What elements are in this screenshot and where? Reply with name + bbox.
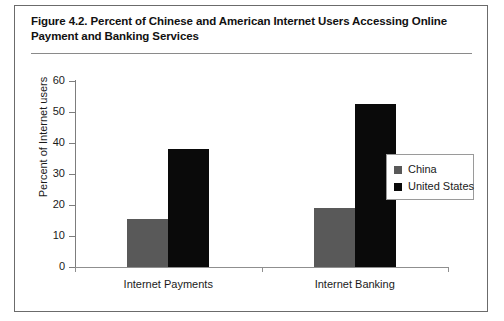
bar-china-internet-payments xyxy=(127,219,168,267)
figure-container: Figure 4.2. Percent of Chinese and Ameri… xyxy=(14,5,488,312)
legend-item-united-states: United States xyxy=(394,181,467,192)
legend-label-china: China xyxy=(408,164,437,175)
x-axis-category-label: Internet Banking xyxy=(295,278,415,290)
y-axis-tick xyxy=(69,174,75,175)
y-axis-tick-label-wrap: 0 xyxy=(15,261,65,272)
x-axis-tick xyxy=(448,267,449,272)
x-axis-tick xyxy=(75,267,76,272)
bar-china-internet-banking xyxy=(314,208,355,267)
y-axis-tick xyxy=(69,81,75,82)
y-axis-tick-label: 40 xyxy=(29,137,65,148)
legend-swatch-icon-china xyxy=(394,166,402,174)
y-axis-tick-label-wrap: 40 xyxy=(15,137,65,148)
y-axis-tick-label-wrap: 20 xyxy=(15,199,65,210)
bar-united-states-internet-payments xyxy=(168,149,209,267)
y-axis-tick-label: 30 xyxy=(29,168,65,179)
y-axis-tick xyxy=(69,205,75,206)
y-axis-tick-label-wrap: 50 xyxy=(15,106,65,117)
legend-item-china: China xyxy=(394,164,467,175)
y-axis-tick-label-wrap: 30 xyxy=(15,168,65,179)
y-axis-tick xyxy=(69,236,75,237)
y-axis-tick-label: 60 xyxy=(29,75,65,86)
y-axis-line xyxy=(75,80,76,268)
y-axis-tick-label-wrap: 60 xyxy=(15,75,65,86)
y-axis-tick-label: 50 xyxy=(29,106,65,117)
x-axis-tick xyxy=(262,267,263,272)
y-axis-tick-label: 10 xyxy=(29,230,65,241)
legend-swatch-icon-united-states xyxy=(394,183,402,191)
y-axis-tick-label: 0 xyxy=(29,261,65,272)
legend-label-united-states: United States xyxy=(408,181,474,192)
chart-legend: China United States xyxy=(386,154,474,200)
y-axis-tick-label: 20 xyxy=(29,199,65,210)
y-axis-tick xyxy=(69,143,75,144)
x-axis-category-label: Internet Payments xyxy=(108,278,228,290)
y-axis-tick xyxy=(69,112,75,113)
y-axis-tick-label-wrap: 10 xyxy=(15,230,65,241)
